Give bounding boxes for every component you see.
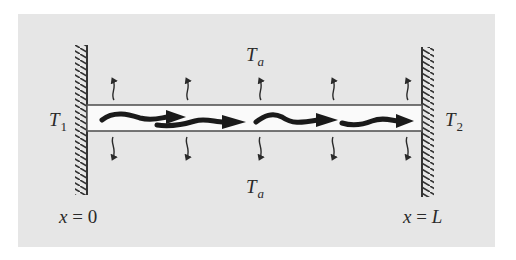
label-x0-eq: = (67, 206, 87, 227)
label-T2-sub: 2 (457, 119, 464, 134)
label-xL-val: L (432, 206, 443, 227)
label-Ta-bottom-base: T (246, 176, 257, 197)
label-Ta-top-base: T (246, 44, 257, 65)
label-T2-base: T (445, 109, 456, 130)
label-Ta-top: Ta (246, 45, 264, 64)
label-x0: x = 0 (59, 207, 97, 226)
label-xL: x = L (403, 207, 442, 226)
label-T1-base: T (49, 109, 60, 130)
right-wall (422, 47, 434, 197)
left-wall (75, 45, 87, 195)
label-Ta-bottom: Ta (246, 177, 264, 196)
label-Ta-bottom-sub: a (258, 186, 265, 201)
label-x0-val: 0 (88, 206, 98, 227)
label-Ta-top-sub: a (258, 54, 265, 69)
label-T1-sub: 1 (61, 119, 68, 134)
heated-rod-diagram: T1 T2 Ta Ta x = 0 x = L (0, 0, 516, 260)
label-T1: T1 (49, 110, 67, 129)
label-xL-eq: = (411, 206, 431, 227)
label-T2: T2 (445, 110, 463, 129)
